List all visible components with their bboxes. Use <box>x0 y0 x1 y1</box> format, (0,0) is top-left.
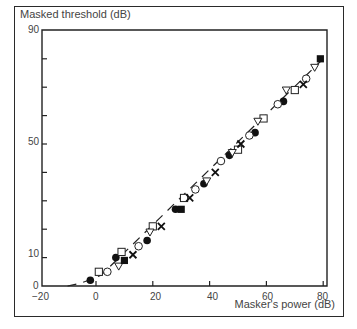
plot-area <box>0 0 357 329</box>
open-triangle-down-marker <box>115 263 123 270</box>
open-triangle-down-marker <box>146 229 154 236</box>
open-triangle-down-marker <box>311 64 319 71</box>
open-triangle-down-marker <box>282 87 290 94</box>
open-circle-marker <box>104 268 112 276</box>
fit-curve <box>68 59 324 286</box>
open-square-marker <box>291 86 298 93</box>
cross-marker <box>300 81 307 88</box>
axes <box>42 30 327 286</box>
filled-square-marker <box>317 55 324 62</box>
axes-box <box>42 30 327 286</box>
cross-marker <box>129 251 136 258</box>
filled-square-marker <box>121 257 128 264</box>
open-circle-marker <box>274 100 282 108</box>
open-circle-marker <box>217 157 225 165</box>
open-circle-marker <box>192 186 200 194</box>
open-square-marker <box>118 248 125 255</box>
fit-line <box>68 59 324 286</box>
open-square-marker <box>95 268 102 275</box>
open-circle-marker <box>246 132 254 140</box>
cross-marker <box>158 223 165 230</box>
open-circle-marker <box>135 242 143 250</box>
filled-circle-marker <box>87 277 95 285</box>
filled-square-marker <box>178 206 185 213</box>
tick-marks <box>42 59 323 286</box>
cross-marker <box>212 169 219 176</box>
filled-circle-marker <box>143 237 151 245</box>
data-markers <box>87 55 324 284</box>
